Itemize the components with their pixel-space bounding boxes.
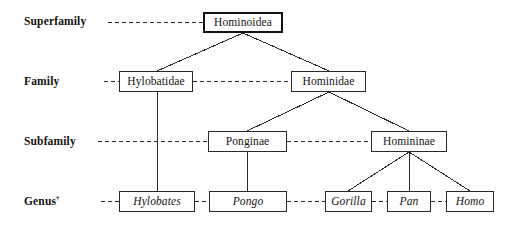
- rank-label-subfamily-text: Subfamily: [24, 135, 76, 147]
- taxon-box-homininae[interactable]: Homininae: [371, 131, 447, 152]
- link-homininae-homo: [409, 152, 470, 191]
- taxonomy-diagram: Superfamily Family Subfamily Genus† Homi…: [0, 0, 514, 230]
- taxon-box-hominidae[interactable]: Hominidae: [291, 71, 366, 92]
- taxon-box-pongo[interactable]: Pongo: [209, 191, 287, 212]
- taxon-box-homo[interactable]: Homo: [446, 191, 494, 212]
- link-hominoidea-hylobatidae: [157, 33, 243, 71]
- taxon-box-gorilla[interactable]: Gorilla: [325, 191, 372, 212]
- rank-label-superfamily: Superfamily: [24, 16, 86, 28]
- link-hominoidea-hominidae: [243, 33, 329, 71]
- rank-label-superfamily-text: Superfamily: [24, 15, 86, 27]
- taxon-box-hylobates[interactable]: Hylobates: [119, 191, 195, 212]
- link-hominidae-homininae: [329, 92, 409, 131]
- rank-label-genus: Genus†: [24, 196, 60, 208]
- rank-label-family-text: Family: [24, 75, 59, 87]
- taxon-box-ponginae[interactable]: Ponginae: [208, 131, 287, 152]
- link-homininae-gorilla: [348, 152, 409, 191]
- rank-label-genus-text: Genus: [24, 195, 56, 207]
- rank-label-genus-marker: †: [56, 194, 60, 202]
- solid-lineage-links: [157, 33, 470, 191]
- rank-label-family: Family: [24, 76, 59, 88]
- taxon-box-hylobatidae[interactable]: Hylobatidae: [119, 71, 193, 92]
- rank-label-subfamily: Subfamily: [24, 136, 76, 148]
- taxon-box-hominoidea[interactable]: Hominoidea: [203, 12, 283, 33]
- link-hominidae-ponginae: [247, 92, 329, 131]
- dashed-rank-rails: [98, 23, 446, 202]
- taxon-box-pan[interactable]: Pan: [387, 191, 431, 212]
